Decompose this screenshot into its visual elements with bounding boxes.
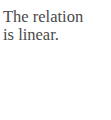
text-card: The relation is linear. [0, 0, 111, 120]
statement-text: The relation is linear. [3, 8, 83, 44]
statement-line-1: The relation [3, 8, 83, 26]
statement-line-2: is linear. [3, 26, 83, 44]
